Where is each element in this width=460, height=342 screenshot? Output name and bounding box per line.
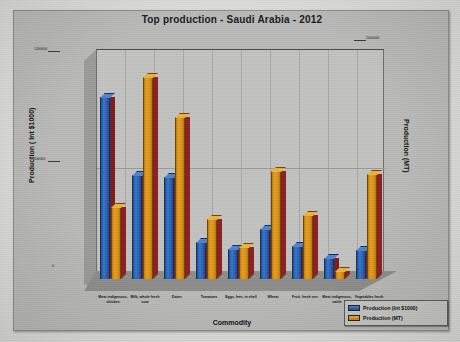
y-axis-left-title: Production ( Int $1000) — [28, 108, 35, 183]
bar-front — [100, 97, 110, 279]
bar-front — [175, 117, 185, 279]
x-axis-label-3: Tomatoes — [192, 295, 226, 300]
bar-front — [111, 207, 121, 279]
chart-panel: Top production - Saudi Arabia - 2012 Pro… — [13, 10, 449, 331]
y-axis-left-tick-top: 1200000 — [34, 47, 47, 51]
bar-int1000-8 — [356, 250, 366, 279]
plot-area: Meat indigenous, chickenMilk, whole fres… — [48, 33, 398, 291]
bar-int1000-0 — [100, 97, 110, 279]
bar-side — [377, 174, 382, 279]
bar-mt-2 — [175, 117, 185, 279]
bar-front — [239, 247, 249, 279]
bar-int1000-2 — [164, 177, 174, 279]
x-axis-label-2: Dates — [160, 295, 194, 300]
legend-label: Production (Int $1000) — [363, 305, 417, 311]
bar-mt-6 — [303, 215, 313, 279]
y-axis-right-title: Production (MT) — [403, 119, 410, 173]
bar-int1000-4 — [228, 249, 238, 279]
bar-mt-5 — [271, 171, 281, 279]
bar-front — [292, 246, 302, 279]
bar-front — [367, 174, 377, 279]
bar-mt-1 — [143, 77, 153, 279]
bar-front — [228, 249, 238, 279]
bar-mt-7 — [335, 271, 345, 279]
legend-label: Production (MT) — [363, 315, 403, 321]
bar-front — [196, 242, 206, 279]
bar-mt-3 — [207, 219, 217, 279]
bar-front — [132, 175, 142, 279]
bar-int1000-1 — [132, 175, 142, 279]
bar-side — [313, 215, 318, 279]
x-axis-label-5: Wheat — [256, 295, 290, 300]
x-axis-label-0: Meat indigenous, chicken — [96, 295, 130, 304]
bar-side — [121, 207, 126, 279]
bar-series-container — [84, 33, 384, 279]
bar-front — [207, 219, 217, 279]
photo-background: Top production - Saudi Arabia - 2012 Pro… — [0, 0, 460, 342]
bar-side — [217, 219, 222, 279]
chart-legend: Production (Int $1000) Production (MT) — [344, 300, 448, 326]
bar-int1000-6 — [292, 246, 302, 279]
bar-front — [164, 177, 174, 279]
bar-side — [153, 77, 158, 279]
bar-front — [324, 258, 334, 279]
bar-front — [143, 77, 153, 279]
bar-int1000-5 — [260, 229, 270, 279]
bar-side — [281, 171, 286, 279]
legend-swatch-blue — [348, 305, 360, 311]
bar-front — [303, 215, 313, 279]
legend-swatch-orange — [348, 315, 360, 321]
legend-item: Production (MT) — [348, 313, 444, 323]
bar-front — [356, 250, 366, 279]
bar-front — [260, 229, 270, 279]
x-axis-label-4: Eggs, hen, in shell — [224, 295, 258, 300]
bar-mt-4 — [239, 247, 249, 279]
bar-mt-0 — [111, 207, 121, 279]
x-axis-label-6: Fruit, fresh nes — [288, 295, 322, 300]
bar-mt-8 — [367, 174, 377, 279]
bar-front — [335, 271, 345, 279]
legend-item: Production (Int $1000) — [348, 303, 444, 313]
bar-side — [249, 247, 254, 279]
bar-int1000-7 — [324, 258, 334, 279]
bar-int1000-3 — [196, 242, 206, 279]
y-axis-left-tick-mid: 600000 — [34, 157, 45, 161]
bar-side — [345, 271, 350, 279]
bar-side — [185, 117, 190, 279]
chart-title: Top production - Saudi Arabia - 2012 — [14, 14, 450, 25]
bar-front — [271, 171, 281, 279]
x-axis-label-1: Milk, whole fresh cow — [128, 295, 162, 304]
